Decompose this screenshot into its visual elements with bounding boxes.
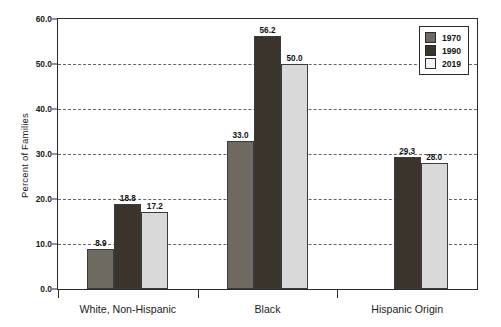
bar-value-label: 50.0: [287, 54, 303, 63]
y-axis-tick-mark: [52, 64, 58, 65]
legend-swatch-2019-icon: [425, 58, 436, 69]
legend-label: 2019: [442, 59, 461, 69]
x-axis-category-label: Hispanic Origin: [371, 303, 443, 315]
y-axis-tick-mark: [52, 154, 58, 155]
bar-value-label: 18.8: [120, 194, 136, 203]
y-axis-tick-label: 20.0: [36, 194, 52, 204]
y-axis-tick-mark: [52, 109, 58, 110]
y-axis-tick-mark: [52, 199, 58, 200]
plot-area: 0.010.020.030.040.050.060.0 8.918.817.23…: [57, 18, 478, 290]
bar-value-label: 28.0: [426, 153, 442, 162]
bar: 56.2: [254, 36, 281, 289]
y-axis-tick-label: 40.0: [36, 104, 52, 114]
y-axis-title: Percent of Families: [19, 76, 30, 236]
legend: 1970 1990 2019: [419, 26, 469, 75]
legend-item: 1990: [425, 44, 461, 57]
legend-label: 1990: [442, 46, 461, 56]
bar: 33.0: [227, 141, 254, 290]
y-axis-tick-label: 50.0: [36, 59, 52, 69]
y-axis-tick-label: 0.0: [40, 284, 52, 294]
legend-swatch-1970-icon: [425, 32, 436, 43]
x-axis-category-label: White, Non-Hispanic: [80, 303, 177, 315]
bar-value-label: 17.2: [147, 202, 163, 211]
bar-value-label: 33.0: [233, 131, 249, 140]
y-axis-tick-label: 10.0: [36, 239, 52, 249]
y-axis-tick-label: 30.0: [36, 149, 52, 159]
x-axis-category-label: Black: [255, 303, 281, 315]
bar: 29.3: [394, 157, 421, 289]
bar: 50.0: [281, 64, 308, 289]
bar: 18.8: [114, 204, 141, 289]
legend-label: 1970: [442, 33, 461, 43]
x-axis-tick-mark: [58, 289, 59, 298]
y-axis-tick-mark: [52, 244, 58, 245]
bar-value-label: 8.9: [95, 239, 106, 248]
legend-item: 1970: [425, 31, 461, 44]
y-axis-tick-label: 60.0: [36, 14, 52, 24]
bar-value-label: 56.2: [260, 26, 276, 35]
bar: 17.2: [141, 212, 168, 289]
x-axis-tick-mark: [198, 289, 199, 298]
bar: 28.0: [421, 163, 448, 289]
bar-value-label: 29.3: [399, 147, 415, 156]
legend-swatch-1990-icon: [425, 45, 436, 56]
bar-chart-figure: Percent of Families 0.010.020.030.040.05…: [0, 0, 501, 327]
bar: 8.9: [87, 249, 114, 289]
x-axis-tick-mark: [337, 289, 338, 298]
y-axis-tick-mark: [52, 19, 58, 20]
legend-item: 2019: [425, 57, 461, 70]
